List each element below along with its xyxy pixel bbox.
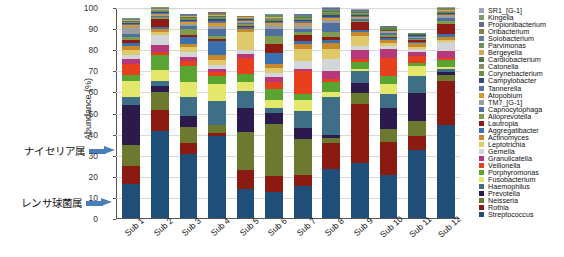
y-tick-mark bbox=[113, 135, 116, 136]
bar-slot bbox=[174, 8, 203, 218]
bar-segment bbox=[408, 93, 426, 121]
bar-segment bbox=[208, 101, 226, 125]
stacked-bar-chart: 0102030405060708090100 bbox=[100, 8, 460, 219]
bar-segment bbox=[180, 127, 198, 143]
bar-segment bbox=[180, 66, 198, 82]
bar-segment bbox=[208, 136, 226, 218]
legend-color-swatch bbox=[479, 100, 484, 105]
bar-segment bbox=[408, 66, 426, 76]
legend-item[interactable]: Streptococcus bbox=[479, 211, 563, 218]
bar-segment bbox=[294, 61, 312, 69]
bar-segment bbox=[351, 104, 369, 163]
legend-color-swatch bbox=[479, 15, 484, 20]
legend-color-swatch bbox=[479, 50, 484, 55]
legend-color-swatch bbox=[479, 121, 484, 126]
bar-segment bbox=[437, 60, 455, 67]
bar-segment bbox=[437, 81, 455, 124]
bar-segment bbox=[408, 136, 426, 151]
stacked-bar[interactable] bbox=[265, 14, 283, 218]
bar-segment bbox=[322, 82, 340, 92]
bar-segment bbox=[351, 83, 369, 94]
stacked-bar[interactable] bbox=[437, 7, 455, 218]
bar-segment bbox=[265, 100, 283, 108]
legend-color-swatch bbox=[479, 86, 484, 91]
bar-group bbox=[117, 8, 460, 218]
bar-segment bbox=[151, 92, 169, 110]
bar-segment bbox=[208, 125, 226, 133]
legend-color-swatch bbox=[479, 205, 484, 210]
legend-color-swatch bbox=[479, 163, 484, 168]
y-tick-label: 70 bbox=[76, 66, 98, 76]
bar-segment bbox=[180, 116, 198, 127]
bar-segment bbox=[208, 84, 226, 101]
bar-segment bbox=[408, 150, 426, 218]
stacked-bar[interactable] bbox=[294, 14, 312, 218]
x-tick-slot: Sub 4 bbox=[203, 221, 232, 255]
legend-color-swatch bbox=[479, 36, 484, 41]
bar-segment bbox=[380, 108, 398, 128]
bar-segment bbox=[151, 55, 169, 70]
bar-slot bbox=[317, 8, 346, 218]
bar-slot bbox=[146, 8, 175, 218]
y-tick-label: 30 bbox=[76, 151, 98, 161]
y-tick-mark bbox=[113, 8, 116, 9]
bar-segment bbox=[265, 44, 283, 53]
bar-segment bbox=[294, 139, 312, 174]
legend-color-swatch bbox=[479, 128, 484, 133]
stacked-bar[interactable] bbox=[322, 7, 340, 218]
x-tick-slot: Sub 8 bbox=[317, 221, 346, 255]
bar-segment bbox=[151, 35, 169, 45]
bar-slot bbox=[231, 8, 260, 218]
bar-segment bbox=[265, 82, 283, 89]
stacked-bar[interactable] bbox=[208, 12, 226, 218]
bar-slot bbox=[203, 8, 232, 218]
stacked-bar[interactable] bbox=[237, 16, 255, 218]
legend-color-swatch bbox=[479, 212, 484, 217]
stacked-bar[interactable] bbox=[351, 9, 369, 218]
y-tick-mark bbox=[113, 29, 116, 30]
x-tick-slot: Sub 10 bbox=[374, 221, 403, 255]
legend-color-swatch bbox=[479, 198, 484, 203]
legend-color-swatch bbox=[479, 71, 484, 76]
bar-segment bbox=[380, 84, 398, 94]
bar-segment bbox=[237, 82, 255, 91]
bar-segment bbox=[237, 58, 255, 73]
bar-segment bbox=[237, 132, 255, 169]
bar-segment bbox=[380, 76, 398, 84]
bar-segment bbox=[122, 105, 140, 145]
y-tick-label: 90 bbox=[76, 24, 98, 34]
legend-color-swatch bbox=[479, 177, 484, 182]
y-tick-mark bbox=[113, 92, 116, 93]
bar-segment bbox=[151, 19, 169, 27]
legend-item-label: Streptococcus bbox=[488, 211, 534, 218]
bar-segment bbox=[265, 192, 283, 218]
bar-segment bbox=[151, 110, 169, 131]
bar-segment bbox=[408, 121, 426, 136]
bar-segment bbox=[294, 128, 312, 139]
legend-color-swatch bbox=[479, 149, 484, 154]
stacked-bar[interactable] bbox=[180, 14, 198, 218]
bar-segment bbox=[122, 166, 140, 184]
legend-color-swatch bbox=[479, 184, 484, 189]
bar-segment bbox=[380, 49, 398, 57]
stacked-bar[interactable] bbox=[408, 33, 426, 218]
legend-color-swatch bbox=[479, 93, 484, 98]
bar-segment bbox=[237, 32, 255, 50]
x-tick-slot: Sub 6 bbox=[260, 221, 289, 255]
legend-color-swatch bbox=[479, 29, 484, 34]
bar-segment bbox=[208, 29, 226, 36]
bar-segment bbox=[151, 131, 169, 218]
bar-segment bbox=[294, 100, 312, 111]
y-tick-mark bbox=[113, 114, 116, 115]
y-tick-mark bbox=[113, 198, 116, 199]
bar-segment bbox=[351, 36, 369, 46]
bar-segment bbox=[122, 27, 140, 34]
legend-color-swatch bbox=[479, 78, 484, 83]
stacked-bar[interactable] bbox=[380, 26, 398, 218]
legend: SR1_[G-1]KingellaPropionibacteriumOribac… bbox=[479, 7, 563, 218]
stacked-bar[interactable] bbox=[151, 7, 169, 218]
bar-segment bbox=[180, 82, 198, 97]
bar-segment bbox=[351, 62, 369, 69]
y-tick-label: 0 bbox=[76, 214, 98, 224]
stacked-bar[interactable] bbox=[122, 18, 140, 218]
